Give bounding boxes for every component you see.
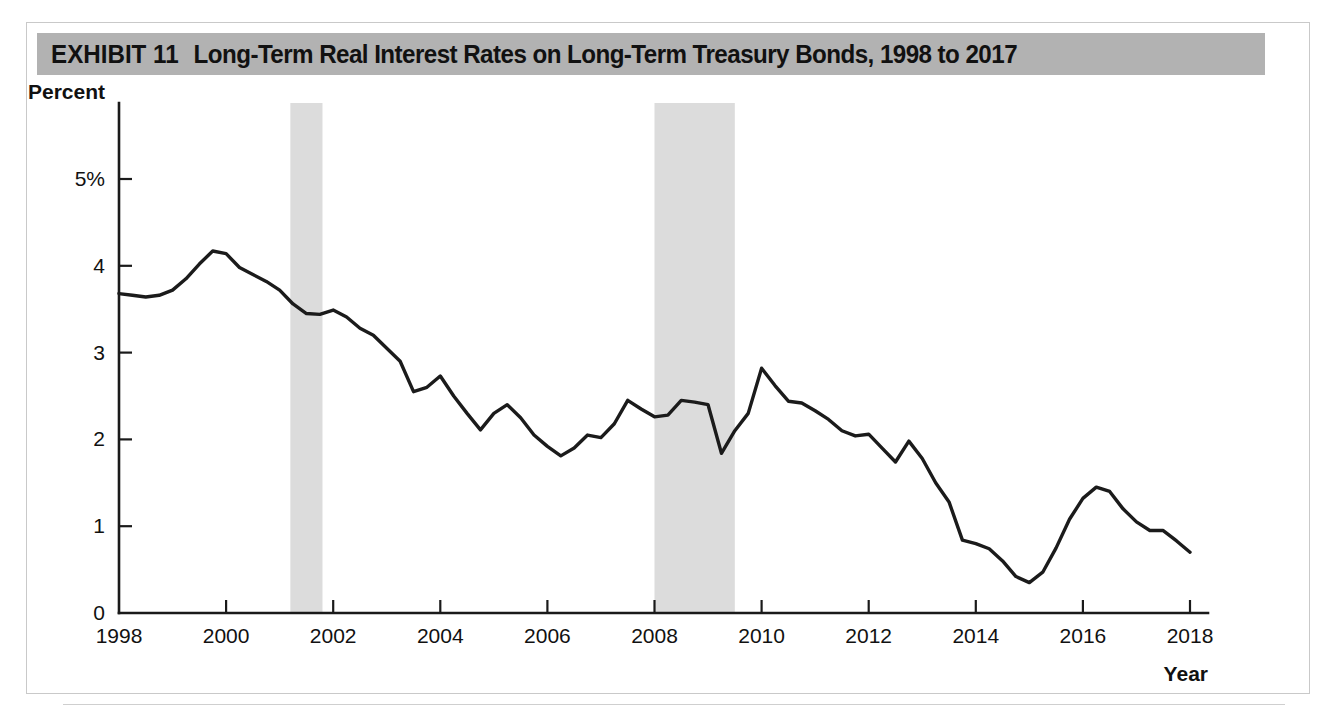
y-tick-label-0: 0 [93,601,105,624]
recession-2008-2009 [655,103,735,613]
x-tick-label-2018: 2018 [1167,624,1214,647]
line-chart: 012345%199820002002200420062008201020122… [27,75,1309,693]
x-tick-label-2004: 2004 [417,624,464,647]
exhibit-title: EXHIBIT 11Long-Term Real Interest Rates … [51,39,1017,70]
chart-labels: 012345%199820002002200420062008201020122… [28,80,1213,685]
x-axis-caption: Year [1164,662,1208,685]
x-tick-label-1998: 1998 [96,624,143,647]
y-tick-label-5%: 5% [75,167,105,190]
x-tick-label-2006: 2006 [524,624,571,647]
x-tick-label-2010: 2010 [738,624,785,647]
x-tick-label-2000: 2000 [203,624,250,647]
exhibit-number-label: EXHIBIT 11 [51,39,179,69]
recession-bands [290,103,734,613]
x-tick-label-2012: 2012 [845,624,892,647]
x-tick-label-2008: 2008 [631,624,678,647]
y-tick-label-3: 3 [93,341,105,364]
exhibit-frame: EXHIBIT 11Long-Term Real Interest Rates … [26,22,1310,694]
y-tick-label-2: 2 [93,427,105,450]
y-tick-label-4: 4 [93,254,105,277]
x-tick-label-2002: 2002 [310,624,357,647]
x-tick-label-2014: 2014 [952,624,999,647]
recession-2001 [290,103,322,613]
y-tick-label-1: 1 [93,514,105,537]
exhibit-title-text: Long-Term Real Interest Rates on Long-Te… [194,39,1017,69]
y-axis-caption: Percent [28,80,105,103]
exhibit-title-bar: EXHIBIT 11Long-Term Real Interest Rates … [37,33,1265,75]
chart-plot-area: 012345%199820002002200420062008201020122… [27,75,1309,693]
x-tick-label-2016: 2016 [1060,624,1107,647]
bottom-divider-rule [63,704,1285,705]
